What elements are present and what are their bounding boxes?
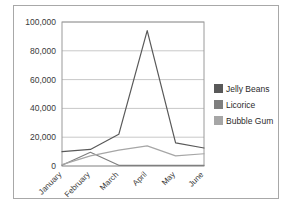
legend-label[interactable]: Jelly Beans [226,84,269,94]
chart-legend[interactable]: Jelly BeansLicoriceBubble Gum [214,84,273,126]
legend-label[interactable]: Bubble Gum [226,116,273,126]
y-axis-tick-label: 80,000 [30,46,56,56]
y-axis-tick-label: 20,000 [30,132,56,142]
y-axis-tick-labels: 020,00040,00060,00080,000100,000 [25,17,56,171]
x-axis-tick-label: January [37,170,63,196]
x-axis-tick-labels: JanuaryFebruaryMarchAprilMayJune [37,170,206,198]
chart-container[interactable]: 020,00040,00060,00080,000100,000 January… [14,6,278,198]
y-axis-tick-label: 60,000 [30,75,56,85]
line-chart-svg[interactable]: 020,00040,00060,00080,000100,000 January… [14,6,278,198]
x-axis-tick-label: May [160,170,177,187]
y-axis-tick-label: 0 [51,161,56,171]
y-axis-tick-label: 40,000 [30,103,56,113]
x-axis-tick-label: June [187,170,206,189]
y-axis-tick-label: 100,000 [25,17,56,27]
chart-outer-frame: 020,00040,00060,00080,000100,000 January… [13,5,279,199]
legend-label[interactable]: Licorice [226,100,256,110]
x-axis-tick-label: March [98,170,120,192]
legend-swatch [214,100,223,109]
x-axis-tick-label: February [63,170,92,198]
legend-swatch [214,84,223,93]
x-axis-tick-label: April [131,170,149,188]
legend-swatch [214,116,223,125]
